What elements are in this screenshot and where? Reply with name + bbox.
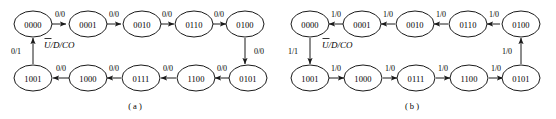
edge-label: 0/0 [217, 64, 227, 73]
diagram-b-bottom-nodes: 1001 1000 0111 1100 0101 [291, 65, 540, 91]
diagram-b: 0000 0001 0010 0110 0100 1001 1000 0111 … [288, 10, 540, 112]
state-node-label: 0110 [459, 20, 476, 30]
state-node-label: 0000 [301, 20, 318, 30]
state-diagram-figure: 0000 0001 0010 0110 0100 1001 1000 0111 … [0, 0, 556, 119]
state-node-label: 0101 [239, 74, 256, 84]
state-node-label: 0000 [24, 20, 41, 30]
state-node-label: 0100 [236, 20, 253, 30]
control-label-a: U/D/CO [44, 39, 75, 50]
edge-label: 0/0 [56, 64, 66, 73]
state-node-label: 0001 [353, 20, 370, 30]
control-label-b: U/D/CO [322, 39, 353, 50]
edge-label: 1/0 [438, 64, 448, 73]
state-node-label: 1001 [24, 74, 41, 84]
edge-label: 1/0 [383, 10, 393, 19]
state-node-label: 1001 [301, 74, 318, 84]
edge-label: 1/0 [331, 10, 341, 19]
diagram-a-bottom-nodes: 1001 1000 0111 1100 0101 [14, 65, 267, 91]
edge-label: 1/0 [436, 10, 446, 19]
state-node-label: 1000 [79, 74, 96, 84]
state-node-label: 0100 [512, 20, 529, 30]
edge-label: 1/0 [502, 47, 512, 56]
edge-label: 0/1 [11, 47, 21, 56]
state-node-label: 0010 [133, 20, 150, 30]
edge-label: 1/0 [331, 64, 341, 73]
edge-label: 0/0 [162, 10, 172, 19]
edge-label: 0/0 [214, 10, 224, 19]
edge-label: 0/0 [109, 10, 119, 19]
control-label-text: U/D/CO [44, 40, 75, 50]
edge-label: 1/0 [489, 10, 499, 19]
diagram-a-top-nodes: 0000 0001 0010 0110 0100 [14, 11, 264, 37]
figure-canvas: 0000 0001 0010 0110 0100 1001 1000 0111 … [0, 0, 556, 119]
state-node-label: 0111 [133, 74, 150, 84]
edge-label: 0/0 [254, 47, 264, 56]
state-node-label: 1100 [460, 74, 477, 84]
state-node-label: 0010 [406, 20, 423, 30]
state-node-label: 0101 [512, 74, 529, 84]
state-node-label: 0111 [408, 74, 425, 84]
edge-label: 1/0 [385, 64, 395, 73]
diagram-a: 0000 0001 0010 0110 0100 1001 1000 0111 … [11, 10, 267, 112]
edge-label: 0/0 [55, 10, 65, 19]
edge-label: 1/0 [491, 64, 501, 73]
control-label-text: U/D/CO [322, 40, 353, 50]
edge-label: 0/0 [109, 64, 119, 73]
edge-label: 0/0 [163, 64, 173, 73]
state-node-label: 1100 [187, 74, 204, 84]
figure-caption-b: ( b ) [405, 101, 419, 111]
diagram-b-top-nodes: 0000 0001 0010 0110 0100 [291, 11, 540, 37]
edge-label: 1/1 [288, 47, 298, 56]
state-node-label: 0110 [185, 20, 202, 30]
figure-caption-a: ( a ) [128, 101, 142, 111]
state-node-label: 1000 [354, 74, 371, 84]
state-node-label: 0001 [79, 20, 96, 30]
